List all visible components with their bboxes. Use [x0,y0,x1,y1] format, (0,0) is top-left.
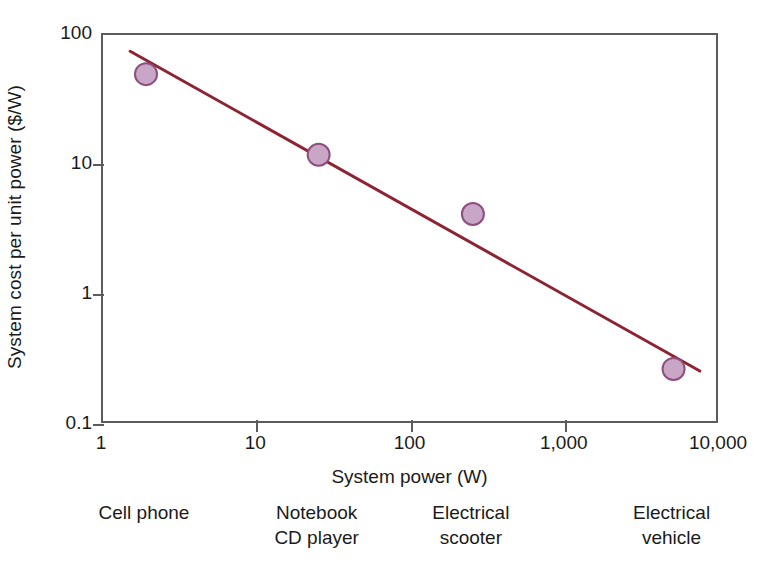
category-label-line: Electrical [432,500,509,525]
y-tick-mark-1 [93,164,104,166]
trend-line-group [130,51,700,371]
data-point-3 [663,358,685,380]
x-tick-label-2: 100 [394,432,426,454]
y-axis-title: System cost per unit power ($/W) [0,15,30,439]
x-tick-label-4: 10,000 [689,432,747,454]
category-label-3: Electricalvehicle [633,500,710,550]
x-tick-label-3: 1,000 [540,432,588,454]
x-axis-tick-labels: 1101001,00010,000 [0,432,777,460]
data-point-0 [135,63,157,85]
data-points-group [135,63,685,380]
x-axis-title: System power (W) [101,466,718,488]
plot-area [101,33,718,423]
data-point-2 [462,203,484,225]
trend-line [130,51,700,371]
category-label-1: NotebookCD player [274,500,358,550]
chart-figure: System cost per unit power ($/W) 1001010… [0,0,777,569]
category-label-line: CD player [274,525,358,550]
category-label-line: Electrical [633,500,710,525]
category-annotations: Cell phoneNotebookCD playerElectricalsco… [0,500,777,560]
category-label-line: Cell phone [99,500,190,525]
data-point-1 [308,144,330,166]
y-tick-label-2: 1 [36,282,92,304]
category-label-line: vehicle [633,525,710,550]
category-label-2: Electricalscooter [432,500,509,550]
y-tick-label-1: 10 [36,152,92,174]
category-label-line: Notebook [274,500,358,525]
x-tick-label-0: 1 [96,432,107,454]
x-tick-mark-3 [565,420,567,432]
y-axis-tick-labels: 1001010.1 [36,0,92,569]
category-label-0: Cell phone [99,500,190,525]
y-tick-label-0: 100 [36,22,92,44]
x-tick-mark-1 [256,420,258,432]
x-tick-label-1: 10 [245,432,266,454]
y-tick-label-3: 0.1 [36,412,92,434]
category-label-line: scooter [432,525,509,550]
plot-canvas [103,35,720,425]
y-tick-mark-3 [93,424,104,426]
y-tick-mark-2 [93,294,104,296]
x-tick-mark-2 [411,420,413,432]
